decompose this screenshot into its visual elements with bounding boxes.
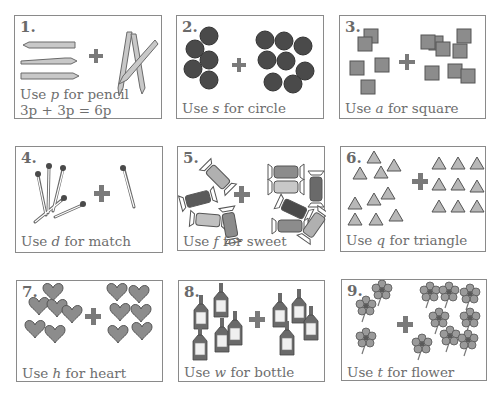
card-7-heart: 7. Use h for heart — [16, 280, 163, 382]
card-2-circle: 2. Use s for circle — [176, 15, 324, 119]
caption: Use s for circle — [182, 100, 286, 116]
card-3-square: 3. Use a for square — [339, 15, 486, 119]
caption: Use t for flower — [347, 364, 454, 380]
card-4-match: 4. Use d for match — [15, 146, 163, 253]
caption: Use h for heart — [22, 365, 126, 381]
caption: Use a for square — [345, 100, 459, 116]
card-6-triangle: 6. Use q for triangle — [340, 146, 486, 252]
card-5-sweet: 5. Use f for sweet — [177, 146, 325, 251]
card-8-bottle: 8. Use w for bottle — [178, 280, 325, 382]
caption: Use q for triangle — [346, 232, 467, 248]
caption: Use w for bottle — [184, 364, 294, 380]
card-1-pencil: 1. Use p for pencil 3p + 3p = 6p — [14, 15, 162, 119]
caption: Use d for match — [21, 233, 131, 249]
caption: Use f for sweet — [183, 233, 287, 249]
card-9-flower: 9. Use t for flower — [341, 279, 487, 381]
caption: Use p for pencil — [20, 86, 129, 102]
equation: 3p + 3p = 6p — [20, 102, 111, 118]
